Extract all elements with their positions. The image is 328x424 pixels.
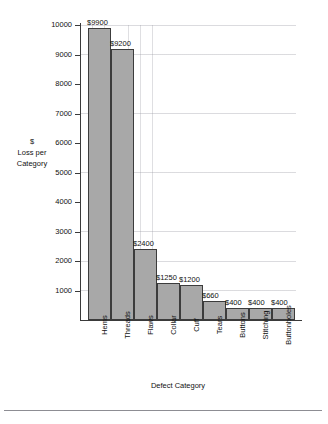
y-tick-mark: [75, 25, 80, 26]
x-category-label: Buttons: [226, 323, 249, 383]
x-category-label-text: Hems: [100, 315, 109, 335]
bar-rect[interactable]: [111, 49, 134, 320]
x-category-label-text: Cuff: [192, 318, 201, 332]
y-tick-label: 7000: [44, 109, 72, 118]
y-tick-mark: [75, 55, 80, 56]
bar-value-label: $9900: [87, 18, 108, 27]
x-category-label: Hems: [88, 323, 111, 383]
y-tick-label: 6000: [44, 138, 72, 147]
x-category-label-text: Buttons: [238, 312, 247, 337]
bar-item[interactable]: $9900: [88, 25, 111, 320]
y-tick-label: 10000: [44, 20, 72, 29]
x-category-label-text: Flaws: [146, 315, 155, 335]
bar-value-label: $400: [225, 298, 242, 307]
x-category-label: Buttonholes: [272, 323, 295, 383]
x-axis-title-text: Defect Category: [151, 381, 205, 390]
y-tick-label: 9000: [44, 50, 72, 59]
bar-item[interactable]: $1250: [157, 25, 180, 320]
y-tick-label: 3000: [44, 227, 72, 236]
bar-rect[interactable]: [88, 28, 111, 320]
x-category-label: Threads: [111, 323, 134, 383]
bar-value-label: $2400: [133, 239, 154, 248]
y-tick-label: 8000: [44, 79, 72, 88]
bar-value-label: $9200: [110, 39, 131, 48]
bar-series: $9900$9200$2400$1250$1200$660$400$400$40…: [88, 25, 295, 320]
x-category-label: Collar: [157, 323, 180, 383]
bar-chart-figure: $ Loss per Category 10002000300040005000…: [0, 0, 328, 424]
bar-item[interactable]: $400: [226, 25, 249, 320]
x-category-label-text: Collar: [169, 315, 178, 335]
x-category-label-text: Tears: [215, 316, 224, 334]
bar-rect[interactable]: [180, 285, 203, 320]
y-axis-title-line-2: Loss per: [2, 147, 62, 158]
x-axis-title: Defect Category: [0, 381, 328, 390]
x-category-label: Tears: [203, 323, 226, 383]
x-category-label-text: Buttonholes: [284, 305, 293, 345]
y-tick-mark: [75, 202, 80, 203]
x-category-label: Flaws: [134, 323, 157, 383]
bar-item[interactable]: $400: [249, 25, 272, 320]
bar-item[interactable]: $2400: [134, 25, 157, 320]
bar-item[interactable]: $660: [203, 25, 226, 320]
y-tick-label: 2000: [44, 256, 72, 265]
y-tick-mark: [75, 84, 80, 85]
bar-value-label: $660: [202, 291, 219, 300]
y-tick-mark: [75, 261, 80, 262]
bar-item[interactable]: $400: [272, 25, 295, 320]
y-tick-mark: [75, 173, 80, 174]
bar-value-label: $1250: [156, 273, 177, 282]
y-tick-mark: [75, 114, 80, 115]
y-tick-label: 1000: [44, 286, 72, 295]
y-tick-label: 4000: [44, 197, 72, 206]
x-axis-category-labels: HemsThreadsFlawsCollarCuffTearsButtonsSt…: [88, 323, 295, 385]
bar-value-label: $400: [248, 298, 265, 307]
x-category-label: Cuff: [180, 323, 203, 383]
bar-value-label: $1200: [179, 275, 200, 284]
x-category-label-text: Threads: [123, 311, 132, 339]
y-tick-mark: [75, 232, 80, 233]
x-category-label-text: Stitching: [261, 311, 270, 340]
bar-rect[interactable]: [134, 249, 157, 320]
y-tick-label: 5000: [44, 168, 72, 177]
y-tick-mark: [75, 291, 80, 292]
bottom-divider: [4, 410, 322, 411]
y-tick-mark: [75, 143, 80, 144]
bar-item[interactable]: $1200: [180, 25, 203, 320]
bar-item[interactable]: $9200: [111, 25, 134, 320]
x-category-label: Stitching: [249, 323, 272, 383]
